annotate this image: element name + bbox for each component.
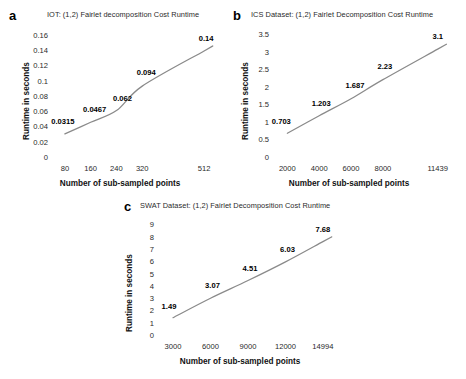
y-tick-label: 0.16 — [22, 32, 48, 40]
panel-letter-a: a — [9, 9, 16, 22]
x-tick-label: 6000 — [343, 165, 360, 173]
runtime-series-line — [65, 46, 213, 134]
data-point-label: 3.1 — [432, 33, 443, 41]
runtime-series-line — [173, 237, 332, 318]
plot-area-c: 987654321030006000900012000149941.493.07… — [158, 218, 338, 336]
y-tick-label: 6 — [128, 258, 154, 266]
chart-panel-b: b ICS Dataset: (1,2) Fairlet Decompositi… — [231, 0, 466, 192]
y-tick-label: 1.5 — [243, 102, 269, 110]
x-tick-label: 80 — [61, 165, 69, 173]
x-tick-label: 11439 — [427, 165, 448, 173]
panel-title-b: ICS Dataset: (1,2) Fairlet Decomposition… — [251, 11, 433, 18]
y-tick-label: 2.5 — [243, 66, 269, 74]
y-tick-label: 0.06 — [22, 108, 48, 116]
y-tick-label: 0.5 — [243, 137, 269, 145]
y-tick-label: 0.08 — [22, 93, 48, 101]
plot-area-b: 3.532.521.510.502000400060008000114390.7… — [273, 28, 453, 158]
data-point-label: 0.703 — [272, 119, 291, 127]
y-tick-label: 0.1 — [22, 78, 48, 86]
x-tick-label: 12000 — [275, 343, 296, 351]
data-point-label: 1.49 — [162, 303, 177, 311]
x-tick-label: 320 — [136, 165, 149, 173]
x-tick-label: 240 — [110, 165, 123, 173]
series-svg-c — [158, 218, 338, 336]
y-tick-label: 5 — [128, 271, 154, 279]
y-tick-label: 1 — [128, 320, 154, 328]
x-axis-label-b: Number of sub-sampled points — [249, 180, 449, 188]
panel-letter-b: b — [233, 9, 241, 22]
y-tick-label: 3 — [128, 295, 154, 303]
x-tick-label: 8000 — [374, 165, 391, 173]
y-tick-label: 0 — [243, 154, 269, 162]
x-tick-label: 4000 — [311, 165, 328, 173]
y-tick-label: 1 — [243, 119, 269, 127]
y-tick-label: 3.5 — [243, 31, 269, 39]
y-tick-label: 3 — [243, 49, 269, 57]
data-point-label: 1.687 — [346, 82, 365, 90]
x-tick-label: 160 — [84, 165, 97, 173]
data-point-label: 0.062 — [113, 95, 132, 103]
x-tick-label: 2000 — [279, 165, 296, 173]
data-point-label: 0.0467 — [83, 106, 106, 114]
runtime-series-line — [287, 44, 446, 133]
y-tick-label: 0.14 — [22, 47, 48, 55]
x-tick-label: 9000 — [240, 343, 257, 351]
plot-area-a: 0.160.140.120.10.080.060.040.02080160240… — [52, 28, 217, 158]
y-tick-label: 8 — [128, 234, 154, 242]
y-tick-label: 0.04 — [22, 124, 48, 132]
data-point-label: 1.203 — [312, 100, 331, 108]
y-tick-label: 4 — [128, 283, 154, 291]
x-tick-label: 512 — [198, 165, 211, 173]
data-point-label: 0.14 — [199, 35, 214, 43]
panel-title-a: IOT: (1,2) Fairlet decomposition Cost Ru… — [47, 11, 199, 18]
data-point-label: 4.51 — [243, 265, 258, 273]
x-tick-label: 6000 — [202, 343, 219, 351]
data-point-label: 6.03 — [280, 246, 295, 254]
x-axis-label-c: Number of sub-sampled points — [135, 358, 345, 366]
panel-letter-c: c — [124, 200, 131, 213]
x-axis-label-a: Number of sub-sampled points — [25, 180, 215, 188]
panel-title-c: SWAT Dataset: (1,2) Fairlet Decompositio… — [140, 202, 330, 209]
y-tick-label: 0 — [22, 154, 48, 162]
data-point-label: 0.094 — [137, 69, 156, 77]
data-point-label: 3.07 — [205, 282, 220, 290]
y-tick-label: 2 — [243, 84, 269, 92]
chart-panel-a: a IOT: (1,2) Fairlet decomposition Cost … — [0, 0, 233, 192]
y-tick-label: 0.12 — [22, 62, 48, 70]
chart-panel-c: c SWAT Dataset: (1,2) Fairlet Decomposit… — [110, 192, 380, 379]
data-point-label: 0.0315 — [51, 118, 74, 126]
x-tick-label: 3000 — [165, 343, 182, 351]
y-tick-label: 2 — [128, 308, 154, 316]
data-point-label: 7.68 — [316, 226, 331, 234]
x-tick-label: 14994 — [312, 343, 333, 351]
y-tick-label: 9 — [128, 222, 154, 230]
y-tick-label: 7 — [128, 246, 154, 254]
series-svg-a — [52, 28, 217, 158]
series-svg-b — [273, 28, 453, 158]
y-tick-label: 0.02 — [22, 139, 48, 147]
data-point-label: 2.23 — [378, 63, 393, 71]
y-tick-label: 0 — [128, 332, 154, 340]
